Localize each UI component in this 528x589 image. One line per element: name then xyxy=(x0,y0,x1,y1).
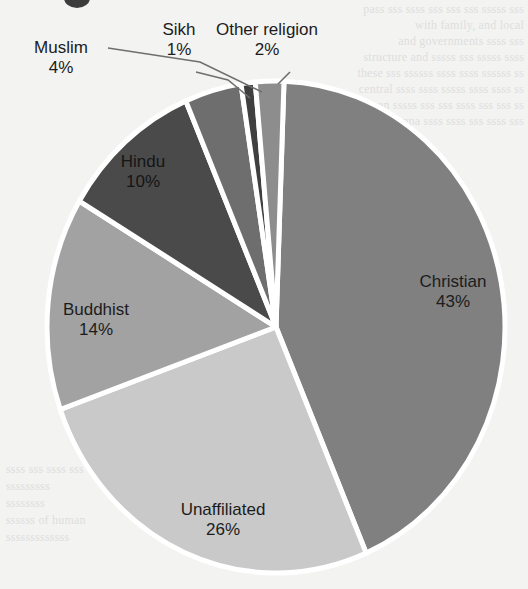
slice-label-sikh: Sikh 1% xyxy=(148,20,210,60)
slice-label-unaffiliated-pct: 26% xyxy=(138,520,308,540)
slice-label-other-religion-name: Other religion xyxy=(216,20,318,39)
slice-label-unaffiliated-name: Unaffiliated xyxy=(181,500,266,519)
slice-label-christian-pct: 43% xyxy=(398,292,508,312)
slice-label-christian-name: Christian xyxy=(419,272,486,291)
slice-label-buddhist-pct: 14% xyxy=(36,320,156,340)
slice-label-sikh-pct: 1% xyxy=(148,40,210,60)
slice-label-other-religion-pct: 2% xyxy=(202,40,332,60)
slice-label-hindu-pct: 10% xyxy=(98,172,188,192)
slice-label-buddhist-name: Buddhist xyxy=(63,300,129,319)
slice-label-hindu-name: Hindu xyxy=(121,152,165,171)
slice-label-other-religion: Other religion 2% xyxy=(202,20,332,60)
slice-label-unaffiliated: Unaffiliated 26% xyxy=(138,500,308,540)
slice-label-muslim-pct: 4% xyxy=(14,58,108,78)
slice-label-hindu: Hindu 10% xyxy=(98,152,188,192)
slice-label-sikh-name: Sikh xyxy=(162,20,195,39)
slice-label-christian: Christian 43% xyxy=(398,272,508,312)
slice-label-muslim: Muslim 4% xyxy=(14,38,108,78)
slice-label-muslim-name: Muslim xyxy=(34,38,88,57)
pie-chart: Christian 43% Unaffiliated 26% Buddhist … xyxy=(0,0,528,589)
slice-label-buddhist: Buddhist 14% xyxy=(36,300,156,340)
